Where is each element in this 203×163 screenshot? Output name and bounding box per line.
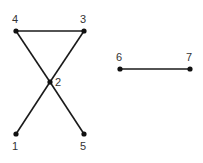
edge-4-2 xyxy=(16,31,50,82)
node-6 xyxy=(117,66,122,71)
node-label-3: 3 xyxy=(80,13,86,25)
edges-group xyxy=(16,31,190,134)
node-label-5: 5 xyxy=(80,140,86,152)
node-label-2: 2 xyxy=(55,76,61,88)
edge-2-5 xyxy=(50,82,84,134)
node-2 xyxy=(47,79,52,84)
node-7 xyxy=(187,66,192,71)
node-3 xyxy=(81,28,86,33)
node-label-7: 7 xyxy=(186,51,192,63)
graph-diagram: 1234567 xyxy=(0,0,203,163)
node-label-4: 4 xyxy=(12,13,18,25)
labels-group: 1234567 xyxy=(12,13,192,152)
node-1 xyxy=(13,131,18,136)
node-4 xyxy=(13,28,18,33)
node-5 xyxy=(81,131,86,136)
node-label-6: 6 xyxy=(116,51,122,63)
nodes-group xyxy=(13,28,192,136)
edge-3-2 xyxy=(50,31,84,82)
node-label-1: 1 xyxy=(12,140,18,152)
edge-2-1 xyxy=(16,82,50,134)
